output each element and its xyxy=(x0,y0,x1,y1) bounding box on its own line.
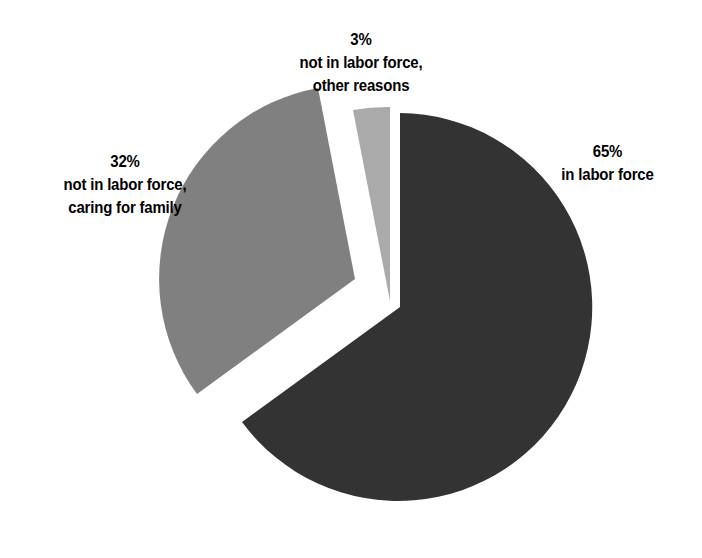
label-in-labor-force: 65% in labor force xyxy=(531,140,685,186)
label-other-reasons: 3% not in labor force, other reasons xyxy=(268,28,455,97)
label-caring-for-family: 32% not in labor force, caring for famil… xyxy=(24,150,226,219)
label-caring-for-family-line2: caring for family xyxy=(24,196,226,219)
label-caring-for-family-percent: 32% xyxy=(24,150,226,173)
pie-slice-other-reasons[interactable] xyxy=(353,107,390,301)
label-other-reasons-line2: other reasons xyxy=(268,74,455,97)
label-in-labor-force-line1: in labor force xyxy=(531,163,685,186)
label-in-labor-force-percent: 65% xyxy=(531,140,685,163)
label-other-reasons-line1: not in labor force, xyxy=(268,51,455,74)
label-caring-for-family-line1: not in labor force, xyxy=(24,173,226,196)
pie-chart-figure: 3% not in labor force, other reasons 32%… xyxy=(0,0,702,558)
pie-slice-caring-for-family[interactable] xyxy=(159,88,355,394)
label-other-reasons-percent: 3% xyxy=(268,28,455,51)
